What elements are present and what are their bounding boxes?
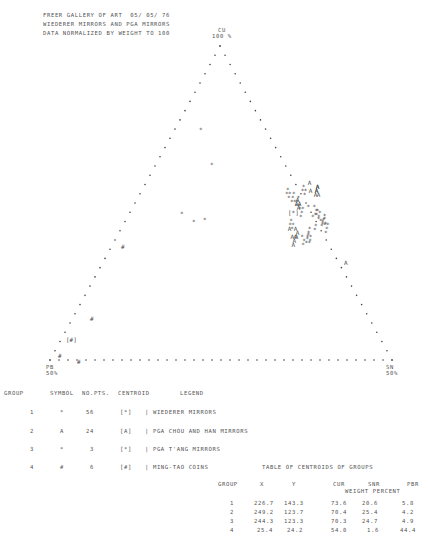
svg-text:*: * [288, 221, 292, 228]
legend-row-centroid: [A] [120, 428, 132, 435]
svg-text:*: * [313, 226, 317, 233]
ct-cell: 25.4 [362, 509, 378, 516]
ct-cell: 1 [230, 500, 234, 507]
ct-cell: 25.4 [257, 527, 273, 534]
ct-cell: 5.8 [402, 500, 414, 507]
svg-text:*: * [210, 161, 214, 168]
svg-text:A: A [292, 241, 296, 248]
ct-cell: 123.3 [284, 518, 304, 525]
ct-cell: 73.6 [331, 500, 347, 507]
svg-text:#: # [77, 358, 81, 365]
centroid-table-title: TABLE OF CENTROIDS OF GROUPS [262, 464, 373, 471]
ct-cell: 2 [230, 509, 234, 516]
ct-cell: 3 [230, 518, 234, 525]
legend-row-npts: 3 [90, 446, 94, 453]
svg-text:A: A [344, 259, 348, 266]
legend-row-label: | MING-TAO COINS [145, 464, 208, 471]
svg-text:#: # [58, 352, 62, 359]
legend-row-centroid: [*] [120, 409, 132, 416]
svg-text:*: * [306, 233, 310, 240]
svg-text:*: * [324, 229, 328, 236]
ct-header-snr: SNR [368, 481, 380, 488]
svg-text:A: A [308, 179, 312, 186]
ct-cell: 123.7 [284, 509, 304, 516]
legend-row-group: 1 [30, 409, 34, 416]
legend-row-symbol: A [60, 428, 64, 435]
svg-text:[#]: [#] [66, 336, 77, 343]
svg-text:*: * [317, 213, 321, 220]
ct-header-group: GROUP [218, 481, 238, 488]
svg-text:A: A [294, 225, 298, 232]
ct-cell: 20.6 [362, 500, 378, 507]
ct-cell: 4.2 [402, 509, 414, 516]
ct-cell: 54.0 [331, 527, 347, 534]
legend-header-legend: LEGEND [180, 390, 204, 397]
svg-text:A: A [315, 187, 319, 194]
ct-cell: 4 [230, 527, 234, 534]
legend-header-npts: NO.PTS. [82, 390, 110, 397]
svg-text:A: A [291, 233, 295, 240]
ct-cell: 4.9 [402, 518, 414, 525]
legend-row-centroid: [*] [120, 446, 132, 453]
legend-row-label: | PGA CHOU AND HAN MIRRORS [145, 428, 248, 435]
legend-header-centroid: CENTROID [118, 390, 150, 397]
svg-text:#: # [121, 243, 125, 250]
legend-header-symbol: SYMBOL [50, 390, 74, 397]
ct-subheader: WEIGHT PERCENT [345, 488, 401, 495]
triangle-edges [49, 45, 393, 361]
legend-row-group: 3 [30, 446, 34, 453]
legend-row-symbol: * [60, 409, 64, 416]
svg-text:*: * [301, 187, 305, 194]
ct-header-cur: CUR [333, 481, 345, 488]
legend-row-symbol: * [60, 446, 64, 453]
legend-row-label: | WIEDERER MIRRORS [145, 409, 216, 416]
legend-row-label: | PGA T'ANG MIRRORS [145, 446, 220, 453]
svg-text:A: A [295, 233, 299, 240]
svg-text:*: * [312, 203, 316, 210]
legend-row-npts: 6 [90, 464, 94, 471]
svg-text:*: * [290, 198, 294, 205]
legend-row-npts: 24 [86, 428, 94, 435]
legend-row-group: 4 [30, 464, 34, 471]
svg-text:[*]: [*] [288, 209, 299, 216]
data-points: *****##[#]##AA***A***A***A***A***A***A**… [58, 126, 348, 365]
legend-row-centroid: [#] [120, 464, 132, 471]
ct-cell: 249.2 [254, 509, 274, 516]
ct-header-y: Y [292, 481, 296, 488]
svg-text:*: * [306, 203, 310, 210]
ct-cell: 24.7 [362, 518, 378, 525]
legend-row-symbol: # [60, 464, 64, 471]
svg-text:*: * [299, 213, 303, 220]
svg-text:A: A [309, 187, 313, 194]
legend-header-group: GROUP [4, 390, 24, 397]
ct-cell: 70.4 [331, 509, 347, 516]
ct-cell: 1.6 [367, 527, 379, 534]
ct-header-pbr: PBR [407, 481, 419, 488]
svg-text:*: * [199, 126, 203, 133]
ct-cell: 70.3 [331, 518, 347, 525]
ct-header-x: X [260, 481, 264, 488]
ct-cell: 143.3 [284, 500, 304, 507]
svg-text:*: * [323, 221, 327, 228]
ct-cell: 24.2 [287, 527, 303, 534]
svg-text:*: * [323, 215, 327, 222]
ct-cell: 44.4 [400, 527, 416, 534]
ct-cell: 244.3 [254, 518, 274, 525]
svg-text:*: * [285, 190, 289, 197]
legend-row-group: 2 [30, 428, 34, 435]
svg-text:*: * [203, 216, 207, 223]
legend-row-npts: 56 [86, 409, 94, 416]
svg-text:*: * [192, 218, 196, 225]
svg-text:#: # [90, 315, 94, 322]
ct-cell: 226.7 [254, 500, 274, 507]
svg-text:*: * [180, 210, 184, 217]
